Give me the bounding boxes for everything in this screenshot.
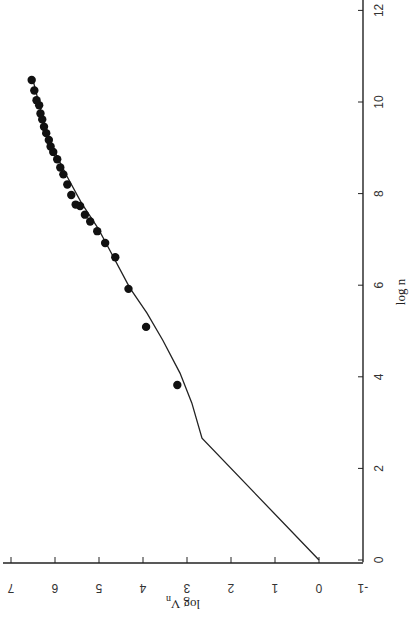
x-tick-label: 10 — [372, 95, 386, 109]
y-tick-label: 7 — [7, 581, 14, 595]
y-tick-label: 1 — [271, 581, 278, 595]
x-tick-label: 6 — [372, 282, 386, 289]
data-point — [124, 285, 132, 293]
y-tick-label: 3 — [183, 581, 190, 595]
x-tick-label: 4 — [372, 373, 386, 380]
data-point — [81, 210, 89, 218]
data-point — [111, 253, 119, 261]
y-axis-title-main: log V — [170, 597, 200, 612]
data-point — [27, 76, 35, 84]
data-point — [101, 239, 109, 247]
y-tick-label: 0 — [315, 581, 322, 595]
data-point — [67, 191, 75, 199]
data-point — [30, 86, 38, 94]
y-axis-title: log Vn — [166, 594, 200, 612]
data-point — [71, 200, 79, 208]
data-point — [56, 163, 64, 171]
y-tick-label: 4 — [139, 581, 146, 595]
y-tick-label: 2 — [227, 581, 234, 595]
data-point — [142, 323, 150, 331]
data-point — [93, 227, 101, 235]
x-axis-title: log n — [393, 278, 408, 305]
model-curve — [33, 80, 319, 560]
data-point — [40, 123, 48, 131]
data-point — [32, 96, 40, 104]
tick-marks — [11, 10, 363, 563]
x-tick-label: 8 — [372, 190, 386, 197]
x-tick-label: 0 — [372, 556, 386, 563]
data-point — [173, 381, 181, 389]
data-points — [27, 76, 181, 389]
data-point — [36, 109, 44, 117]
data-point — [86, 217, 94, 225]
axes — [3, 0, 363, 563]
y-axis-title-subscript: n — [166, 594, 171, 605]
data-point — [53, 155, 61, 163]
y-tick-label: -1 — [357, 581, 368, 595]
rotated-scatter-chart: 024681012-101234567 log n log Vn — [0, 0, 417, 621]
y-tick-label: 6 — [51, 581, 58, 595]
x-tick-label: 12 — [372, 3, 386, 17]
x-tick-label: 2 — [372, 465, 386, 472]
tick-labels: 024681012-101234567 — [7, 3, 386, 595]
data-point — [63, 180, 71, 188]
y-tick-label: 5 — [95, 581, 102, 595]
